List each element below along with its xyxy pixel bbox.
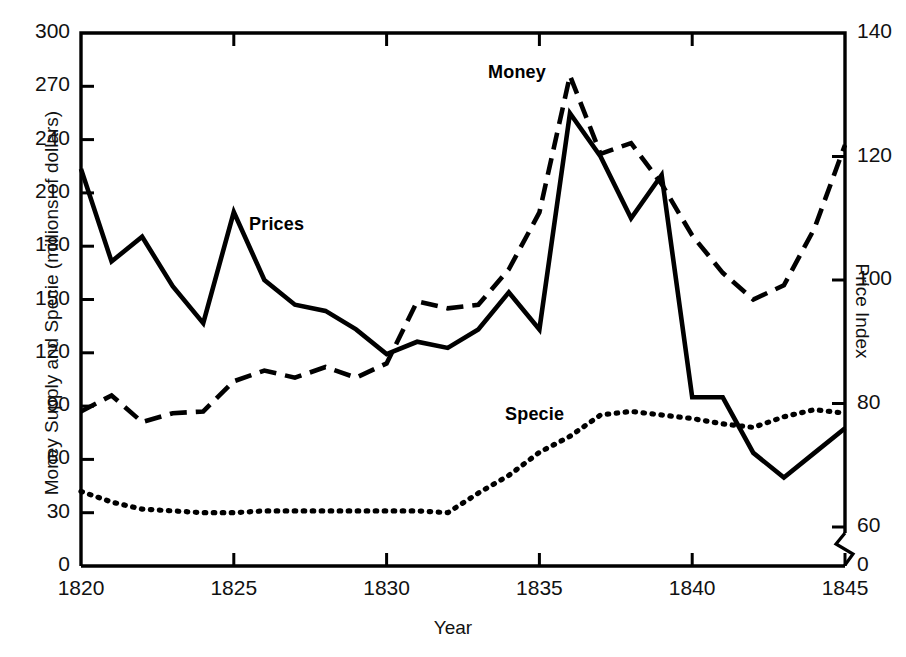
tick-label: 240 <box>8 126 70 150</box>
tick-label: 1835 <box>494 576 584 600</box>
tick-label: 30 <box>8 499 70 523</box>
tick-label: 1825 <box>189 576 279 600</box>
tick-label: 80 <box>857 390 906 414</box>
tick-label: 1820 <box>36 576 126 600</box>
data-series-group <box>81 76 845 513</box>
tick-label: 90 <box>8 392 70 416</box>
tick-label: 120 <box>8 339 70 363</box>
chart-root: Money Supply and Specie (millions of dol… <box>0 0 906 657</box>
tick-label: 1840 <box>647 576 737 600</box>
tick-label: 1830 <box>342 576 432 600</box>
series-label-prices: Prices <box>249 214 304 235</box>
tick-label: 120 <box>857 143 906 167</box>
axis-ticks <box>81 33 845 566</box>
series-label-money: Money <box>488 62 546 83</box>
tick-label: 1845 <box>800 576 890 600</box>
tick-label: 60 <box>8 445 70 469</box>
series-label-specie: Specie <box>505 404 564 425</box>
tick-label: 60 <box>857 513 906 537</box>
tick-label: 100 <box>857 266 906 290</box>
plot-frame <box>81 33 853 566</box>
series-path-prices <box>81 113 845 477</box>
tick-label: 0 <box>8 552 70 576</box>
series-path-money <box>81 76 845 422</box>
chart-canvas <box>0 0 906 657</box>
series-path-specie <box>81 410 845 513</box>
tick-label: 270 <box>8 72 70 96</box>
tick-label: 180 <box>8 232 70 256</box>
tick-label: 150 <box>8 286 70 310</box>
tick-label: 210 <box>8 179 70 203</box>
tick-label: 0 <box>857 552 906 576</box>
tick-label: 300 <box>8 19 70 43</box>
plot-border <box>81 33 845 566</box>
tick-label: 140 <box>857 19 906 43</box>
